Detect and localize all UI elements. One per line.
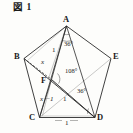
vertex-label-e: E [113, 52, 119, 61]
segment-label-fd: 1 [63, 96, 67, 103]
vertex-label-a: A [63, 15, 69, 24]
angle-label-a: 36° [64, 41, 73, 48]
figure-container: 図 1 A B C [0, 0, 133, 133]
angle-label-d: 36° [77, 88, 86, 95]
vertex-label-f: F [41, 76, 46, 85]
segment-b-f-dashed [24, 59, 52, 80]
vertex-label-b: B [14, 52, 20, 61]
angle-label-f: 108° [65, 68, 77, 75]
angle-arc-f [58, 74, 60, 84]
helper-f-d-inner [52, 80, 93, 116]
segment-label-af: 1 [52, 47, 56, 54]
vertex-label-d: D [97, 113, 103, 122]
vertex-label-c: C [29, 113, 35, 122]
segment-label-bf: x [41, 59, 44, 66]
segment-label-cf: x－1 [40, 96, 54, 103]
segment-label-cd: 1 [65, 120, 69, 127]
